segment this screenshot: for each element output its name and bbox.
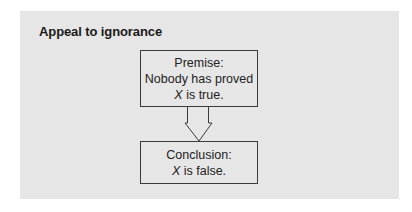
down-arrow-icon (180, 106, 220, 142)
premise-line-2: X is true. (141, 87, 257, 103)
diagram-title: Appeal to ignorance (39, 24, 162, 39)
conclusion-line-1: X is false. (141, 163, 257, 179)
premise-variable: X (174, 88, 182, 102)
conclusion-line-1-text: is false. (180, 164, 226, 178)
premise-box: Premise: Nobody has proved X is true. (140, 50, 258, 107)
premise-line-2-text: is true. (183, 88, 224, 102)
conclusion-box: Conclusion: X is false. (140, 141, 258, 184)
conclusion-variable: X (172, 164, 180, 178)
premise-line-1: Nobody has proved (141, 71, 257, 87)
conclusion-label: Conclusion: (141, 147, 257, 163)
premise-label: Premise: (141, 55, 257, 71)
